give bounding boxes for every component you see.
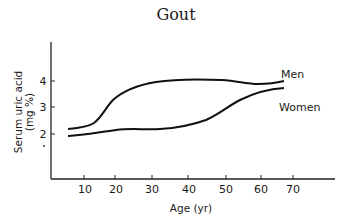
y-tick-label: 4 <box>40 75 47 88</box>
series-women-line <box>68 88 284 136</box>
x-tick-label: 20 <box>109 183 123 196</box>
svg-text:(mg %): (mg %) <box>23 93 35 131</box>
series-label-women: Women <box>279 101 320 114</box>
x-tick-label: 50 <box>219 183 233 196</box>
y-axis-dot <box>43 145 45 147</box>
x-tick-label: 70 <box>286 183 300 196</box>
y-axis-label: Serum uric acid (mg %) <box>12 71 35 153</box>
chart-plot: 4 3 2 10 20 30 40 50 60 70 Age (yr) Seru… <box>0 0 352 220</box>
x-axis-label: Age (yr) <box>170 202 212 214</box>
y-ticks: 4 3 2 <box>40 75 56 147</box>
x-tick-label: 40 <box>182 183 196 196</box>
x-ticks: 10 20 30 40 50 60 70 <box>78 175 300 196</box>
x-tick-label: 60 <box>254 183 268 196</box>
x-tick-label: 10 <box>78 183 92 196</box>
y-tick-label: 3 <box>40 101 47 114</box>
x-tick-label: 30 <box>145 183 159 196</box>
series-label-men: Men <box>281 68 304 81</box>
series-men-line <box>68 79 284 129</box>
y-tick-label: 2 <box>40 128 47 141</box>
